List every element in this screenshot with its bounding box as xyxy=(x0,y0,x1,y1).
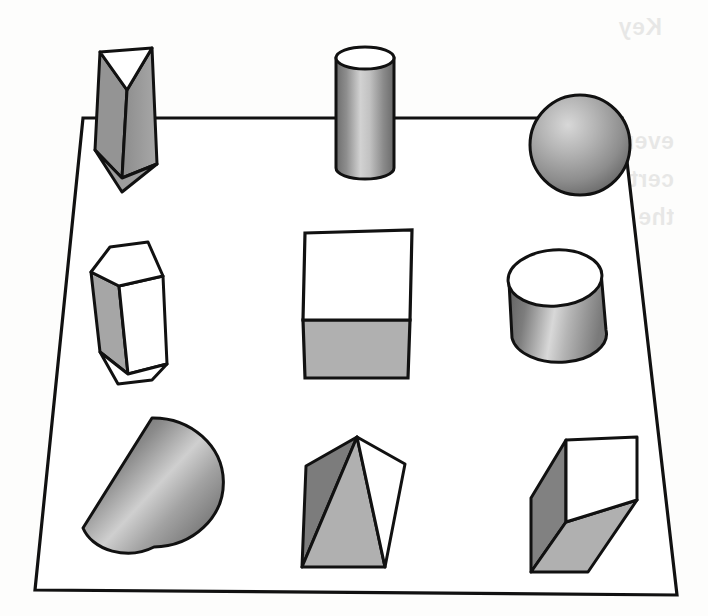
geometric-solids-figure xyxy=(0,0,708,616)
solid-cube xyxy=(303,230,412,378)
solid-wide-cylinder xyxy=(506,247,606,362)
solid-narrow-cylinder xyxy=(336,47,394,179)
scanned-page: Key every shape, and of each size. certa… xyxy=(0,0,708,616)
solid-sphere xyxy=(530,95,630,195)
